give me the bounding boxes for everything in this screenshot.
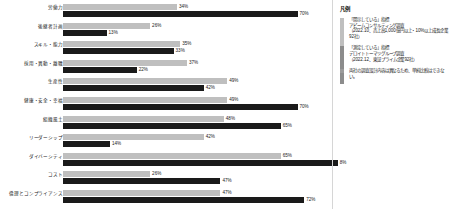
legend-item: 両社の調査設計内容は異なるため、単純比較はできない。 [340,68,448,79]
bar-value-label: 22% [139,67,148,73]
category-label: 労働力 [3,5,63,10]
category-label: スキル・能力 [3,42,63,47]
bar-value-label: 70% [300,11,309,17]
bar-dark [63,104,298,110]
bar-value-label: 70% [300,104,309,110]
bar-dark [63,67,137,73]
category-label: 組織風土 [3,117,63,122]
bar-value-label: 42% [206,85,215,91]
chart-figure: 労働力34%70%後継者計画26%13%スキル・能力35%33%採用・異動・離職… [0,0,452,209]
bar-dark [63,197,304,203]
bar-light [63,116,224,122]
bar-dark [63,30,107,36]
category-label: コスト [3,172,63,177]
legend-item-list: 「開示している」指標 アビームコンサルティング調査 （2022.10、売上高1,… [340,17,448,79]
bar-light [63,153,281,159]
legend-item-text: 両社の調査設計内容は異なるため、単純比較はできない。 [349,68,448,79]
bar-light [63,97,227,103]
category-label: 生産性 [3,79,63,84]
category-label: 倫理とコンプライアンス [3,191,63,196]
bar-value-label: 14% [112,141,121,147]
legend-title: 凡例 [340,6,448,12]
bar-chart-plot-area: 労働力34%70%後継者計画26%13%スキル・能力35%33%採用・異動・離職… [0,0,325,209]
bar-dark [63,160,338,166]
bar-value-label: 72% [306,197,315,203]
bar-light [63,78,227,84]
bar-value-label: 35% [182,41,191,47]
legend-item: 「開示している」指標 アビームコンサルティング調査 （2022.10、売上高1,… [340,17,448,39]
bar-value-label: 65% [283,153,292,159]
bar-value-label: 42% [206,134,215,140]
bar-light [63,41,180,47]
bar-value-label: 48% [226,116,235,122]
legend-panel: 凡例 「開示している」指標 アビームコンサルティング調査 （2022.10、売上… [332,0,452,209]
bar-value-label: 34% [179,4,188,10]
bar-value-label: 49% [229,78,238,84]
category-label: 後継者計画 [3,24,63,29]
bar-light [63,190,220,196]
bar-value-label: 47% [222,190,231,196]
bar-value-label: 47% [222,178,231,184]
bar-dark [63,48,174,54]
note-marker-icon [340,69,344,73]
bar-value-label: 37% [189,60,198,66]
bar-light [63,4,177,10]
bar-dark [63,141,110,147]
legend-item: 「測定している」指標 デロイトトーマツグループ調査 （2022.12、東証プライ… [340,45,448,62]
bar-light [63,134,204,140]
bar-light [63,60,187,66]
legend-item-text: 「測定している」指標 デロイトトーマツグループ調査 （2022.12、東証プライ… [349,45,448,62]
bar-value-label: 13% [109,30,118,36]
category-label: リーダーシップ [3,135,63,140]
bar-light [63,171,150,177]
bar-value-label: 33% [176,48,185,54]
bar-value-label: 49% [229,97,238,103]
bar-value-label: 65% [283,123,292,129]
bar-dark [63,123,281,129]
bar-light [63,23,150,29]
bar-dark [63,85,204,91]
bar-dark [63,11,298,17]
category-label: 採用・異動・離職 [3,61,63,66]
category-label: 健康・安全・幸福 [3,98,63,103]
bar-value-label: 26% [152,23,161,29]
bar-value-label: 26% [152,171,161,177]
legend-item-text: 「開示している」指標 アビームコンサルティング調査 （2022.10、売上高1,… [349,17,448,39]
category-label: ダイバーシティ [3,154,63,159]
bar-dark [63,178,220,184]
